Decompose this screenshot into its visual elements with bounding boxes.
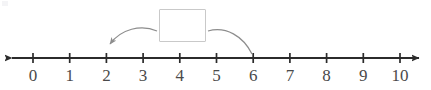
number-line-diagram: 0 1 2 3 4 5 6 7 8 9 10: [0, 0, 431, 90]
tick-label-8: 8: [312, 66, 342, 86]
tick-label-9: 9: [348, 66, 378, 86]
tick-label-2: 2: [91, 66, 121, 86]
tick-label-5: 5: [202, 66, 232, 86]
tick-label-7: 7: [275, 66, 305, 86]
tick-label-3: 3: [128, 66, 158, 86]
tick-label-0: 0: [18, 66, 48, 86]
arrow-to-2: [110, 28, 157, 44]
tick-label-6: 6: [238, 66, 268, 86]
curve-to-6: [208, 30, 252, 54]
tick-label-10: 10: [385, 66, 415, 86]
tick-label-4: 4: [165, 66, 195, 86]
answer-input-box[interactable]: [159, 9, 206, 42]
tick-label-1: 1: [55, 66, 85, 86]
